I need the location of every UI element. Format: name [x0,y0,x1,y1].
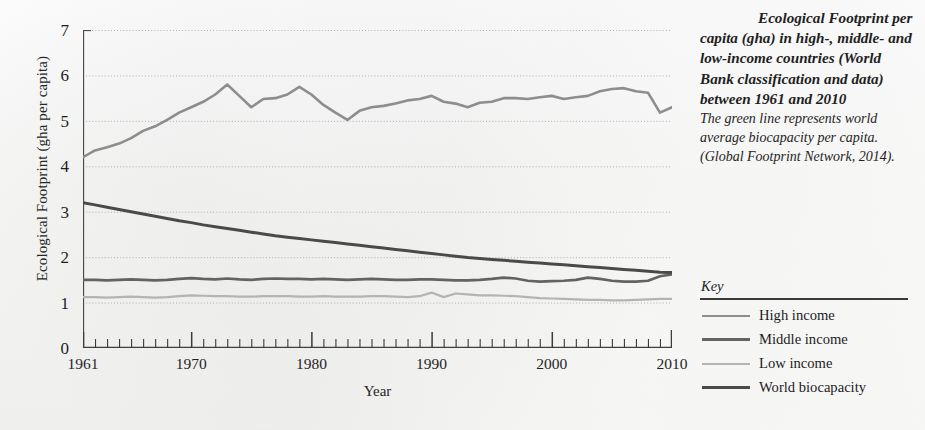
y-tick-labels: 01234567 [61,21,70,358]
x-tick-label: 2010 [657,355,688,372]
x-axis-title: Year [83,383,672,400]
y-tick-label: 1 [61,294,70,313]
legend-divider [700,298,908,300]
legend-item: Low income [700,352,915,376]
x-major-ticks-group [84,332,673,348]
x-tick-label: 1980 [296,355,327,372]
legend-items: High incomeMiddle incomeLow incomeWorld … [700,304,915,400]
y-tick-label: 2 [61,248,70,267]
series-line-high-income [83,85,672,158]
line-chart-svg [83,30,672,348]
y-tick-label: 6 [61,66,70,85]
series-line-middle-income [83,274,672,281]
legend-title: Key [701,278,915,295]
gridlines-group [83,31,672,304]
x-tick-label: 1961 [68,355,99,372]
y-tick-label: 4 [61,157,70,176]
legend-item: Middle income [700,328,915,352]
data-series-group [83,85,672,301]
legend-item-label: World biocapacity [759,379,866,396]
x-tick-label: 2000 [536,355,567,372]
y-tick-label: 0 [61,339,70,358]
legend-item-label: Middle income [759,331,848,348]
plot-area: 01234567 196119701980199020002010 [83,30,672,348]
x-tick-labels: 196119701980199020002010 [68,355,688,372]
legend-item: World biocapacity [700,376,915,400]
legend-line-swatch [702,386,750,389]
legend-item: High income [700,304,915,328]
legend-item-label: Low income [759,355,832,372]
series-line-world-biocapacity [83,203,672,273]
y-axis-title: Ecological Footprint (gha per capita) [34,9,51,329]
x-minor-ticks-group [96,339,661,348]
caption-title: Ecological Footprint per capita (gha) in… [700,8,915,109]
chart-figure: Ecological Footprint (gha per capita) 01… [0,0,690,430]
caption-subtitle: The green line represents world average … [700,110,915,166]
legend-line-swatch [702,338,750,341]
y-tick-label: 5 [61,112,70,131]
x-tick-label: 1990 [416,355,447,372]
figure-caption: Ecological Footprint per capita (gha) in… [700,8,915,166]
legend-item-label: High income [759,307,835,324]
series-line-low-income [83,293,672,301]
x-tick-label: 1970 [176,355,207,372]
y-tick-label: 7 [61,21,70,40]
legend: Key High incomeMiddle incomeLow incomeWo… [700,278,915,400]
legend-line-swatch [702,315,750,317]
y-tick-label: 3 [61,203,70,222]
legend-line-swatch [702,363,750,365]
